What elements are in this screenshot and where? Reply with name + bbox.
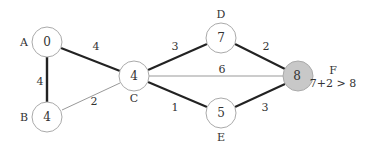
node-c: 4 C (119, 61, 149, 105)
node-d-value: 7 (217, 31, 225, 45)
weight-d-f: 2 (263, 40, 270, 53)
edges (47, 44, 285, 110)
node-e-value: 5 (217, 106, 225, 120)
node-f-annotation: 7+2 > 8 (310, 77, 356, 90)
weight-c-e: 1 (172, 101, 179, 114)
weight-c-d: 3 (172, 40, 179, 53)
edge-d-f (235, 44, 285, 69)
weight-a-b: 4 (37, 75, 44, 88)
weight-a-c: 4 (93, 40, 100, 53)
weight-b-c: 2 (91, 95, 98, 108)
node-d: 7 D (206, 8, 236, 53)
node-a-label: A (19, 36, 29, 49)
node-f: 8 F 7+2 > 8 (283, 61, 356, 91)
graph-diagram: 4 4 2 3 6 1 2 3 0 A 4 B 4 C 7 D 5 E 8 F … (0, 0, 368, 149)
weight-e-f: 3 (262, 101, 269, 114)
node-a: 0 A (19, 27, 62, 57)
node-b: 4 B (20, 102, 62, 132)
edge-a-c (61, 48, 120, 71)
node-c-label: C (130, 92, 138, 105)
node-f-value: 8 (293, 69, 301, 83)
node-a-value: 0 (43, 35, 51, 49)
node-e: 5 E (206, 98, 236, 144)
node-f-label: F (329, 64, 337, 77)
node-b-label: B (20, 111, 28, 124)
weight-c-f: 6 (219, 63, 226, 76)
node-d-label: D (217, 8, 226, 21)
node-c-value: 4 (130, 69, 138, 83)
edge-e-f (235, 84, 285, 107)
node-e-label: E (217, 131, 225, 144)
node-b-value: 4 (43, 110, 51, 124)
